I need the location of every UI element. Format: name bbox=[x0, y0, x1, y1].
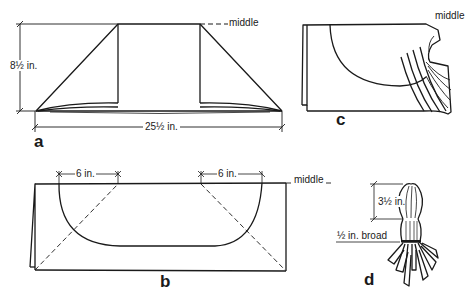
figure-d-letter: d bbox=[364, 271, 374, 288]
figure-b-right-measure: 6 in. bbox=[217, 168, 238, 179]
diagram-canvas bbox=[0, 0, 468, 295]
figure-d-broad-label: ½ in. broad bbox=[337, 230, 387, 241]
figure-c-letter: c bbox=[336, 111, 345, 128]
figure-b-drawing bbox=[30, 171, 334, 271]
figure-a-height-label: 8½ in. bbox=[10, 60, 37, 71]
figure-b-left-measure: 6 in. bbox=[75, 168, 96, 179]
figure-c-drawing bbox=[302, 24, 451, 114]
figure-c-middle-label: middle bbox=[435, 10, 464, 21]
figure-b-middle-label: middle bbox=[294, 174, 323, 185]
figure-d-height-label: 3½ in. bbox=[378, 196, 405, 207]
figure-a-middle-label: middle bbox=[229, 17, 258, 28]
figure-a-drawing bbox=[16, 21, 285, 132]
figure-b-letter: b bbox=[160, 273, 170, 290]
figure-a-width-label: 25½ in. bbox=[143, 121, 180, 132]
figure-a-letter: a bbox=[34, 133, 43, 150]
